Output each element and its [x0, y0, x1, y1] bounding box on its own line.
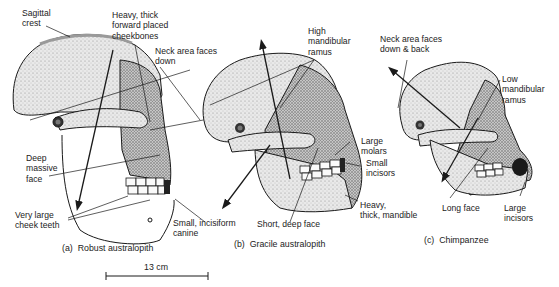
scale-bar-label: 13 cm	[144, 262, 168, 272]
caption-chimpanzee: (c) Chimpanzee	[424, 235, 489, 246]
caption-robust-australopith: (a) Robust australopith	[62, 243, 153, 254]
label-large-incisors: Large incisors	[504, 203, 533, 224]
label-cheekbones: Heavy, thick forward placed cheekbones	[112, 10, 168, 41]
label-neck-area-down-back: Neck area faces down & back	[380, 34, 442, 55]
label-high-mandibular-ramus: High mandibular ramus	[308, 26, 351, 57]
label-long-face: Long face	[442, 203, 480, 213]
label-small-incisors: Small incisors	[366, 158, 395, 179]
label-deep-massive-face: Deep massive face	[26, 153, 58, 184]
label-short-deep-face: Short, deep face	[257, 219, 320, 229]
label-heavy-thick-mandible: Heavy, thick, mandible	[360, 200, 417, 221]
label-neck-area-down: Neck area faces down	[155, 46, 217, 67]
label-small-incisiform-canine: Small, incisiform canine	[173, 218, 236, 239]
label-large-molars: Large molars	[361, 136, 387, 157]
label-low-mandibular-ramus: Low mandibular ramus	[502, 74, 545, 105]
caption-gracile-australopith: (b) Gracile australopith	[234, 239, 325, 250]
label-very-large-cheek-teeth: Very large cheek teeth	[15, 210, 59, 231]
label-sagittal-crest: Sagittal crest	[22, 8, 51, 29]
skull-comparison-figure: Sagittal crest Heavy, thick forward plac…	[0, 0, 559, 287]
gracile-australopith-skull	[203, 44, 362, 222]
scale-bar	[106, 272, 208, 280]
